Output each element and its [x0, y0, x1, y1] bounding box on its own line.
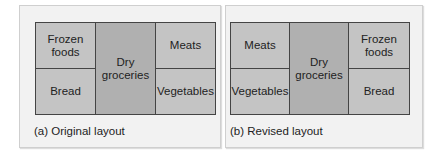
section-bottom-left: Bread: [36, 69, 95, 114]
section-bottom-right: Bread: [349, 69, 409, 114]
store-layout-grid: Frozen foods Dry groceries Meats Bread V…: [35, 22, 216, 115]
section-top-left: Frozen foods: [36, 23, 95, 68]
section-bottom-right: Vegetables: [156, 69, 215, 114]
store-layout-grid: Meats Dry groceries Frozen foods Vegetab…: [230, 22, 410, 115]
section-bottom-left: Vegetables: [231, 69, 289, 114]
panel-original-layout: Frozen foods Dry groceries Meats Bread V…: [19, 5, 221, 148]
section-center: Dry groceries: [96, 23, 155, 114]
section-top-right: Meats: [156, 23, 215, 68]
section-top-left: Meats: [231, 23, 289, 68]
section-center: Dry groceries: [290, 23, 348, 114]
panel-caption: (a) Original layout: [34, 125, 125, 137]
panel-caption: (b) Revised layout: [230, 125, 323, 137]
panel-revised-layout: Meats Dry groceries Frozen foods Vegetab…: [225, 5, 423, 148]
section-top-right: Frozen foods: [349, 23, 409, 68]
